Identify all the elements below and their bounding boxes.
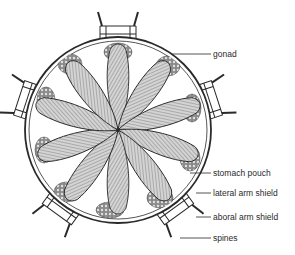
label-stomach-pouch: stomach pouch [213, 169, 271, 178]
label-spines: spines [213, 234, 238, 243]
label-lateral-arm-shield: lateral arm shield [213, 189, 278, 198]
mouth-center [116, 128, 120, 132]
label-gonad: gonad [213, 50, 237, 59]
label-aboral-arm-shield: aboral arm shield [213, 213, 278, 222]
